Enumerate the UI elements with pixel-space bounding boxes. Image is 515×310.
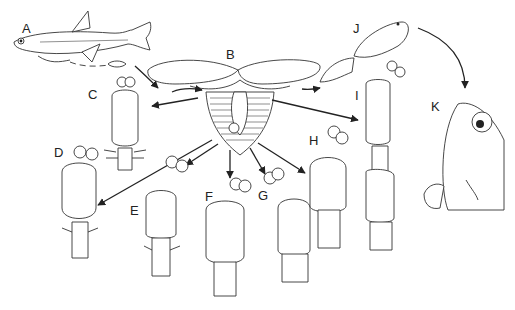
larva-d-drawing (62, 146, 98, 258)
label-d: D (54, 146, 63, 159)
label-k: K (431, 100, 440, 113)
label-e: E (130, 204, 139, 217)
label-c: C (88, 88, 97, 101)
fish-head-k-drawing (424, 103, 504, 210)
life-cycle-figure: A B C D E F G H I J K (0, 0, 515, 310)
pre-adult-i-drawing (366, 61, 405, 250)
fish-host-drawing (14, 11, 151, 67)
label-a: A (22, 22, 31, 35)
larva-g-drawing (264, 168, 310, 282)
label-f: F (205, 190, 213, 203)
label-g: G (258, 189, 268, 202)
label-j: J (353, 22, 360, 35)
label-i: I (355, 89, 359, 102)
label-h: H (309, 134, 318, 147)
egg-bearing-adult-drawing (148, 60, 320, 155)
illustration (0, 0, 515, 310)
larva-e-drawing (144, 156, 188, 276)
label-b: B (226, 48, 235, 61)
larva-c-drawing (104, 77, 146, 170)
